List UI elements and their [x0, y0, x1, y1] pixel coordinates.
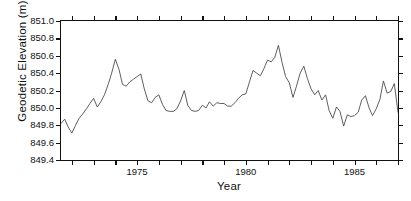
x-tick-label: 1975: [127, 167, 148, 177]
x-tick: [246, 160, 247, 165]
y-tick: [56, 21, 61, 22]
x-tick-top: [355, 16, 356, 21]
y-tick: [56, 125, 61, 126]
x-tick-top: [289, 16, 290, 21]
x-tick: [159, 160, 160, 165]
x-tick-top: [181, 16, 182, 21]
y-tick-label: 851.0: [30, 16, 54, 26]
y-tick: [56, 160, 61, 161]
y-tick-right: [398, 38, 403, 39]
y-tick-label: 850.6: [30, 51, 54, 61]
x-tick-top: [224, 16, 225, 21]
x-tick-top: [333, 16, 334, 21]
x-tick: [289, 160, 290, 165]
x-tick-label: 1980: [235, 167, 256, 177]
x-tick-top: [376, 16, 377, 21]
x-tick: [398, 160, 399, 165]
x-tick: [72, 160, 73, 165]
y-tick-label: 850.0: [30, 103, 54, 113]
x-tick: [376, 160, 377, 165]
y-tick-label: 850.2: [30, 86, 54, 96]
x-tick: [333, 160, 334, 165]
x-tick-label: 1985: [344, 167, 365, 177]
y-tick-label: 850.4: [30, 68, 54, 78]
x-tick: [224, 160, 225, 165]
x-tick-top: [268, 16, 269, 21]
y-tick-right: [398, 21, 403, 22]
y-tick-right: [398, 108, 403, 109]
x-tick-top: [72, 16, 73, 21]
y-axis-title: Geodetic Elevation (m): [16, 0, 28, 136]
y-tick-right: [398, 125, 403, 126]
x-tick: [202, 160, 203, 165]
x-tick: [181, 160, 182, 165]
y-tick-label: 850.8: [30, 34, 54, 44]
x-axis-title: Year: [60, 180, 398, 192]
x-tick: [137, 160, 138, 165]
y-tick: [56, 38, 61, 39]
y-tick-right: [398, 91, 403, 92]
x-tick: [268, 160, 269, 165]
x-tick: [115, 160, 116, 165]
y-tick-right: [398, 73, 403, 74]
y-tick-right: [398, 143, 403, 144]
x-tick-top: [137, 16, 138, 21]
plot-area: 851.0850.8850.6850.4850.2850.0849.8849.6…: [60, 20, 399, 161]
x-tick-top: [202, 16, 203, 21]
y-tick: [56, 108, 61, 109]
y-tick-label: 849.4: [30, 155, 54, 165]
x-tick-top: [398, 16, 399, 21]
y-tick: [56, 73, 61, 74]
x-tick: [355, 160, 356, 165]
y-tick-label: 849.6: [30, 138, 54, 148]
chart-figure: Geodetic Elevation (m) 851.0850.8850.685…: [0, 0, 411, 201]
x-tick-top: [115, 16, 116, 21]
x-tick-top: [94, 16, 95, 21]
y-tick: [56, 143, 61, 144]
data-line-series: [61, 21, 398, 160]
x-tick: [94, 160, 95, 165]
y-tick: [56, 91, 61, 92]
y-tick: [56, 56, 61, 57]
y-tick-right: [398, 56, 403, 57]
x-tick-top: [246, 16, 247, 21]
x-tick: [311, 160, 312, 165]
x-tick-top: [159, 16, 160, 21]
x-tick-top: [311, 16, 312, 21]
y-tick-label: 849.8: [30, 121, 54, 131]
